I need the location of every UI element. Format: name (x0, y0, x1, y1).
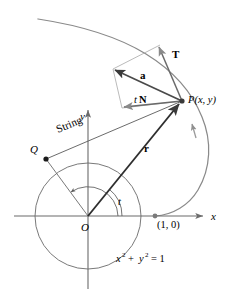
unit-point-label: (1, 0) (157, 219, 180, 231)
point-P-marker (179, 98, 184, 103)
point-Q-marker (43, 156, 48, 161)
circle-equation-x-exponent: 2 (122, 251, 126, 259)
circle-equation-plus: + (128, 253, 134, 264)
vector-tN-label: t N (134, 94, 147, 105)
vector-a-label: a (140, 69, 146, 81)
circle-equation-equals: = 1 (151, 253, 165, 264)
vector-r-label: r (144, 142, 149, 154)
vector-tN-label-N: N (139, 94, 147, 105)
circle-equation-y: y (138, 253, 144, 264)
circle-equation-y-exponent: 2 (145, 251, 149, 259)
point-Q-label: Q (30, 143, 38, 155)
x-axis-label: x (210, 210, 216, 222)
origin-label: O (81, 221, 89, 233)
vector-T-label: T (172, 48, 180, 60)
point-unit-marker (153, 214, 158, 219)
circle-equation-x: x (115, 253, 121, 264)
involute-diagram: x y O (1, 0) Q P(x, y) r T a t N String … (0, 0, 230, 303)
point-P-label: P(x, y) (187, 94, 216, 106)
